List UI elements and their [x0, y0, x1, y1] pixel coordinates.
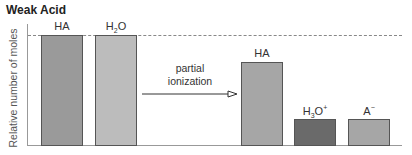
arrow-label-line2: ionization	[150, 75, 230, 88]
bar	[294, 119, 336, 146]
arrow-label: partial ionization	[150, 62, 230, 88]
y-axis	[27, 24, 28, 146]
chart-title: Weak Acid	[6, 3, 66, 17]
bar-label: HA	[41, 20, 83, 32]
bar-label: A−	[348, 104, 390, 117]
arrow-label-line1: partial	[150, 62, 230, 75]
y-axis-label: Relative number of moles	[7, 28, 19, 147]
arrow-right-icon	[142, 90, 238, 98]
bar	[241, 62, 283, 146]
bar-label: HA	[241, 47, 283, 59]
bar-label: H3O+	[294, 104, 336, 119]
bar-label: H2O	[95, 20, 137, 34]
bar	[41, 35, 83, 146]
bar	[348, 119, 390, 146]
x-axis	[27, 145, 402, 146]
reference-dashed-line	[28, 35, 402, 36]
bar	[95, 35, 137, 146]
